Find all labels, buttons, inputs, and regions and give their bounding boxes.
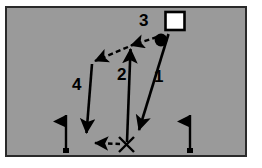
path-3-arrow-segment-a xyxy=(131,37,157,46)
path-2-arrow xyxy=(127,49,131,142)
step-label-2: 2 xyxy=(117,66,126,83)
flag-right xyxy=(177,115,193,153)
step-label-4: 4 xyxy=(72,76,81,93)
play-diagram: 1 2 3 4 xyxy=(0,0,262,168)
diagram-vector-layer xyxy=(0,0,262,168)
path-4-arrow xyxy=(87,64,93,133)
step-label-3: 3 xyxy=(139,12,148,29)
flag-left xyxy=(53,115,69,153)
step-label-1: 1 xyxy=(154,68,163,85)
path-3-arrow-segment-b xyxy=(95,47,128,61)
square-marker xyxy=(166,12,185,30)
ball-marker xyxy=(155,34,168,47)
path-5-arrow xyxy=(95,143,120,144)
